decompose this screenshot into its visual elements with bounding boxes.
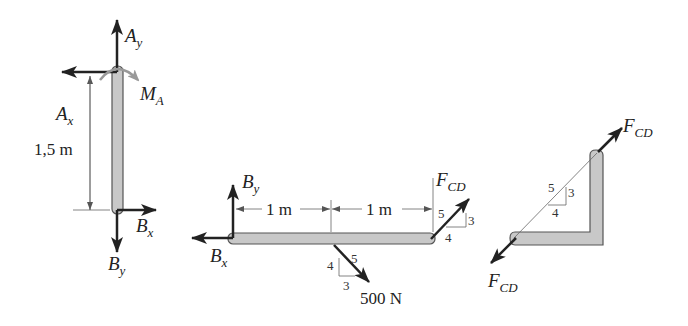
column-member bbox=[112, 66, 123, 214]
force-arrow-FCD-top bbox=[598, 128, 622, 152]
label-By: By bbox=[242, 171, 260, 196]
slope-label-5: 5 bbox=[351, 251, 358, 266]
label-By: By bbox=[108, 253, 126, 278]
force-arrow-FCD-bottom bbox=[491, 238, 516, 263]
line-of-action bbox=[514, 153, 597, 238]
label-Bx: Bx bbox=[210, 245, 228, 270]
slope-label-5: 5 bbox=[548, 180, 555, 195]
fbd-beam: 1 m 1 m 4 5 3 500 N 5 3 4 FCD By Bx bbox=[192, 169, 475, 308]
slope-label-3: 3 bbox=[468, 213, 475, 228]
label-500N: 500 N bbox=[360, 289, 402, 308]
label-FCD: FCD bbox=[435, 169, 466, 194]
label-MA: MA bbox=[139, 83, 164, 108]
link-member bbox=[510, 150, 603, 245]
dimension-label-1m-right: 1 m bbox=[366, 200, 392, 219]
label-FCD-top: FCD bbox=[622, 115, 653, 140]
fbd-column: Ay MA Ax 1,5 m Bx By bbox=[34, 20, 164, 278]
beam-member bbox=[228, 233, 435, 244]
slope-label-4: 4 bbox=[445, 230, 452, 245]
label-FCD-bottom: FCD bbox=[487, 270, 518, 295]
fbd-link: 5 3 4 FCD FCD bbox=[487, 115, 653, 295]
slope-label-5: 5 bbox=[438, 206, 445, 221]
label-Bx: Bx bbox=[136, 215, 154, 240]
diagram-canvas: Ay MA Ax 1,5 m Bx By 1 m 1 m 4 5 3 500 N… bbox=[0, 0, 688, 326]
slope-label-4: 4 bbox=[552, 205, 559, 220]
slope-label-3: 3 bbox=[568, 185, 575, 200]
label-Ay: Ay bbox=[123, 25, 143, 50]
label-Ax: Ax bbox=[54, 103, 74, 128]
dimension-label-1-5m: 1,5 m bbox=[34, 140, 73, 159]
slope-label-4: 4 bbox=[327, 258, 334, 273]
slope-label-3: 3 bbox=[343, 278, 350, 293]
dimension-label-1m-left: 1 m bbox=[266, 200, 292, 219]
